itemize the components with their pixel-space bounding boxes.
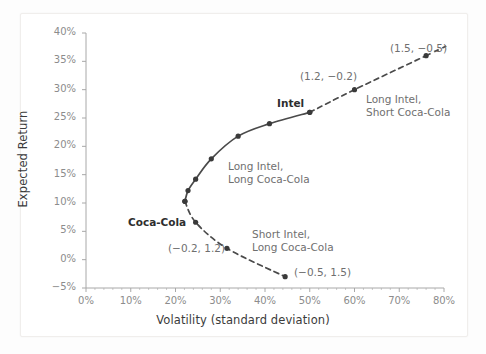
point-label-neg-0-5: (−0.5, 1.5) [294, 266, 351, 279]
point-label-1-2: (1.2, −0.2) [300, 70, 357, 83]
y-tick-label: 40% [40, 26, 76, 37]
x-tick-label: 50% [288, 295, 332, 306]
coca-cola-label: Coca-Cola [128, 216, 186, 229]
x-tick-label: 20% [154, 295, 198, 306]
chart-figure: Volatility (standard deviation) Expected… [0, 0, 486, 354]
x-axis-title: Volatility (standard deviation) [0, 313, 486, 327]
x-tick-label: 0% [64, 295, 108, 306]
y-tick-label: 10% [40, 196, 76, 207]
short-long-annotation: Short Intel, Long Coca-Cola [252, 228, 334, 254]
intel-label: Intel [277, 97, 304, 110]
long-long-annotation: Long Intel, Long Coca-Cola [228, 160, 310, 186]
point-label-neg-0-2: (−0.2, 1.2) [168, 242, 225, 255]
y-tick-label: 25% [40, 111, 76, 122]
point-label-1-5: (1.5, −0.5) [390, 42, 447, 55]
y-tick-label: −5% [40, 281, 76, 292]
y-tick-label: 0% [40, 253, 76, 264]
x-tick-label: 70% [377, 295, 421, 306]
x-tick-label: 10% [109, 295, 153, 306]
x-tick-label: 40% [243, 295, 287, 306]
x-tick-label: 60% [333, 295, 377, 306]
y-tick-label: 15% [40, 168, 76, 179]
x-tick-label: 80% [422, 295, 466, 306]
y-tick-label: 5% [40, 224, 76, 235]
y-tick-label: 30% [40, 83, 76, 94]
y-axis-title: Expected Return [16, 74, 30, 244]
long-short-annotation: Long Intel, Short Coca-Cola [366, 93, 450, 119]
y-tick-label: 20% [40, 139, 76, 150]
x-tick-label: 30% [198, 295, 242, 306]
y-tick-label: 35% [40, 54, 76, 65]
